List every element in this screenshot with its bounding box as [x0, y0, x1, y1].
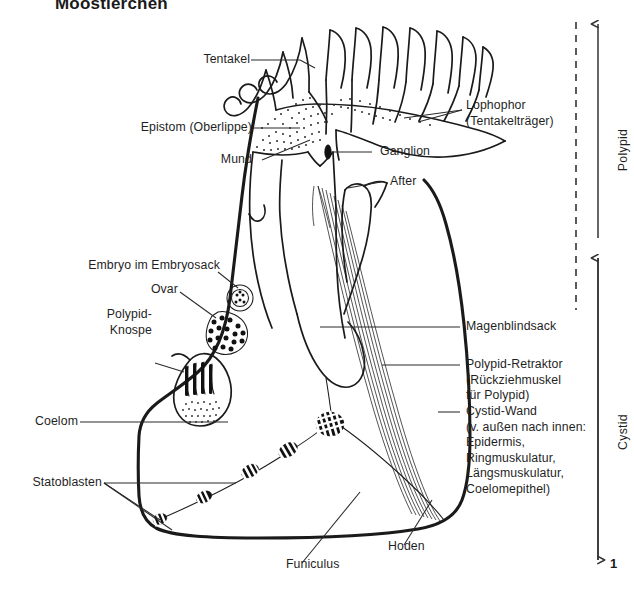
label-coelom: Coelom — [12, 414, 78, 430]
label-polypid-knospe: Polypid- Knospe — [68, 307, 152, 338]
bryozoan-illustration — [0, 0, 634, 593]
label-lophophor: Lophophor (Tentakelträger) — [466, 98, 554, 129]
label-magenblindsack: Magenblindsack — [466, 319, 556, 335]
label-ganglion: Ganglion — [380, 144, 430, 160]
figure-canvas: Moostierchen — [0, 0, 634, 593]
polypid-bud — [172, 354, 231, 426]
label-statoblasten: Statoblasten — [14, 475, 102, 491]
cystid-wall — [138, 98, 470, 538]
label-mund: Mund — [192, 152, 252, 168]
label-cystid-wand: Cystid-Wand (v. außen nach innen: Epider… — [466, 404, 586, 497]
statoblast-bodies — [151, 410, 345, 527]
label-hoden: Hoden — [388, 539, 425, 555]
label-after: After — [390, 174, 416, 190]
label-funiculus: Funiculus — [286, 557, 340, 573]
bracket-label-polypid: Polypid — [616, 129, 630, 171]
polypid-retractor-fibres — [313, 186, 441, 521]
ganglion-mark — [325, 145, 332, 159]
label-polypid-retraktor: Polypid-Retraktor (Rückziehmuskel für Po… — [466, 357, 563, 404]
label-ovar: Ovar — [120, 282, 178, 298]
label-tentakel: Tentakel — [190, 52, 250, 68]
label-embryo-im-embryosack: Embryo im Embryosack — [72, 258, 220, 274]
figure-number: 1 — [610, 556, 617, 571]
bracket-label-cystid: Cystid — [616, 414, 630, 450]
label-epistom: Epistom (Oberlippe) — [120, 120, 252, 136]
